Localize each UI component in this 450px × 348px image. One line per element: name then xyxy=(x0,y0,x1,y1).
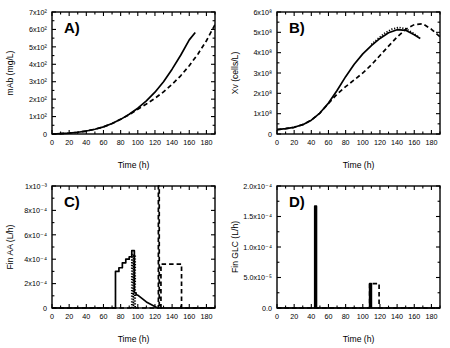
axis-tick-label: 80 xyxy=(117,138,125,147)
axis-tick-label: 0 xyxy=(268,130,272,139)
chart-a: 02040608010012014016018001x10²2x10²3x10²… xyxy=(0,0,225,174)
axis-tick-label: 1.0x10⁻⁴ xyxy=(243,243,272,252)
axis-tick-label: 120 xyxy=(374,138,386,147)
axis-tick-label: 2.0x10⁻⁴ xyxy=(243,182,272,191)
axis-tick-label: 3x10⁸ xyxy=(253,69,272,78)
axis-tick-label: 1.5x10⁻⁴ xyxy=(243,212,272,221)
chart-d: 0204060801001201401601800.05.0x10⁻⁵1.0x1… xyxy=(225,174,450,348)
axis-tick-label: 6x10² xyxy=(29,25,48,34)
axis-tick-label: 120 xyxy=(374,312,386,321)
x-axis-title: Time (h) xyxy=(343,334,375,344)
axis-tick-label: 40 xyxy=(307,138,315,147)
panel-label: B) xyxy=(289,19,305,36)
axis-tick-label: 4x10⁻⁴ xyxy=(24,255,47,264)
axis-tick-label: 0 xyxy=(275,138,279,147)
axis-tick-label: 100 xyxy=(357,138,369,147)
axis-tick-label: 120 xyxy=(149,312,161,321)
figure-panel-grid: 02040608010012014016018001x10²2x10²3x10²… xyxy=(0,0,450,348)
chart-b: 02040608010012014016018001x10⁸2x10⁸3x10⁸… xyxy=(225,0,450,174)
axis-tick-label: 2x10⁸ xyxy=(253,89,272,98)
axis-tick-label: 2x10² xyxy=(29,95,48,104)
chart-c: 02040608010012014016018002x10⁻⁴4x10⁻⁴6x1… xyxy=(0,174,225,348)
series-group xyxy=(52,25,215,134)
axis-tick-label: 180 xyxy=(425,312,437,321)
axis-tick-label: 60 xyxy=(99,138,107,147)
axis-tick-label: 5.0x10⁻⁵ xyxy=(243,273,272,282)
panel-label: A) xyxy=(64,19,80,36)
axis-tick-label: 1x10² xyxy=(29,112,48,121)
axis-tick-label: 3x10² xyxy=(29,77,48,86)
axis-tick-label: 5x10² xyxy=(29,43,48,52)
axis-tick-label: 180 xyxy=(200,312,212,321)
x-axis-title: Time (h) xyxy=(118,334,150,344)
axis-tick-label: 1x10⁸ xyxy=(253,109,272,118)
axis-tick-label: 40 xyxy=(82,138,90,147)
axis-tick-label: 0.0 xyxy=(262,304,272,313)
axis-tick-label: 6x10⁻⁴ xyxy=(24,231,47,240)
x-axis-title: Time (h) xyxy=(118,160,150,170)
panel-b-xv: 02040608010012014016018001x10⁸2x10⁸3x10⁸… xyxy=(225,0,450,174)
panel-c-fin-aa: 02040608010012014016018002x10⁻⁴4x10⁻⁴6x1… xyxy=(0,174,225,348)
panel-d-fin-glc: 0204060801001201401601800.05.0x10⁻⁵1.0x1… xyxy=(225,174,450,348)
axis-tick-label: 80 xyxy=(117,312,125,321)
panel-label: C) xyxy=(64,193,80,210)
axis-tick-label: 100 xyxy=(132,138,144,147)
series-dotted-band xyxy=(132,254,135,308)
series-solid xyxy=(277,30,420,130)
axis-tick-label: 180 xyxy=(200,138,212,147)
axis-tick-label: 4x10² xyxy=(29,60,48,69)
axis-tick-label: 180 xyxy=(425,138,437,147)
axis-tick-label: 80 xyxy=(342,138,350,147)
axis-tick-label: 100 xyxy=(132,312,144,321)
axis-tick-label: 4x10⁸ xyxy=(253,48,272,57)
axis-tick-label: 40 xyxy=(307,312,315,321)
axis-tick-label: 60 xyxy=(99,312,107,321)
series-solid xyxy=(277,206,440,308)
axis-tick-label: 60 xyxy=(324,312,332,321)
axis-tick-label: 7x10² xyxy=(29,8,48,17)
axis-tick-label: 120 xyxy=(149,138,161,147)
axis-tick-label: 160 xyxy=(408,312,420,321)
axis-tick-label: 20 xyxy=(290,312,298,321)
axis-tick-label: 8x10⁻⁴ xyxy=(24,206,47,215)
axis-tick-label: 2x10⁻⁴ xyxy=(24,279,47,288)
axis-tick-label: 100 xyxy=(357,312,369,321)
axis-tick-label: 140 xyxy=(391,312,403,321)
y-axis-title: Fin AA (L/h) xyxy=(5,224,15,269)
y-axis-title: Fin GLC (L/h) xyxy=(230,221,240,273)
axis-tick-label: 1x10⁻³ xyxy=(25,182,48,191)
axis-tick-label: 5x10⁸ xyxy=(253,28,272,37)
y-axis-title: Xv (cells/L) xyxy=(230,52,240,95)
axis-tick-label: 160 xyxy=(183,312,195,321)
axis-tick-label: 0 xyxy=(50,312,54,321)
x-axis-title: Time (h) xyxy=(343,160,375,170)
series-group xyxy=(277,24,440,130)
axis-tick-label: 80 xyxy=(342,312,350,321)
axis-tick-label: 6x10⁸ xyxy=(253,8,272,17)
axis-tick-label: 0 xyxy=(50,138,54,147)
axis-tick-label: 20 xyxy=(290,138,298,147)
series-dashed xyxy=(277,24,440,130)
axis-tick-label: 20 xyxy=(65,312,73,321)
series-group xyxy=(277,206,440,308)
panel-label: D) xyxy=(289,193,305,210)
y-axis-title: mAb (mg/L) xyxy=(5,50,15,95)
axis-tick-label: 0 xyxy=(275,312,279,321)
series-dashed xyxy=(277,284,440,308)
axis-tick-label: 20 xyxy=(65,138,73,147)
axis-tick-label: 160 xyxy=(408,138,420,147)
axis-tick-label: 140 xyxy=(166,312,178,321)
axis-tick-label: 160 xyxy=(183,138,195,147)
axis-tick-label: 140 xyxy=(166,138,178,147)
axis-tick-label: 0 xyxy=(43,130,47,139)
axis-tick-label: 60 xyxy=(324,138,332,147)
axis-tick-label: 40 xyxy=(82,312,90,321)
axis-tick-label: 0 xyxy=(43,304,47,313)
panel-a-mab: 02040608010012014016018001x10²2x10²3x10²… xyxy=(0,0,225,174)
axis-tick-label: 140 xyxy=(391,138,403,147)
series-dashed xyxy=(52,25,215,134)
